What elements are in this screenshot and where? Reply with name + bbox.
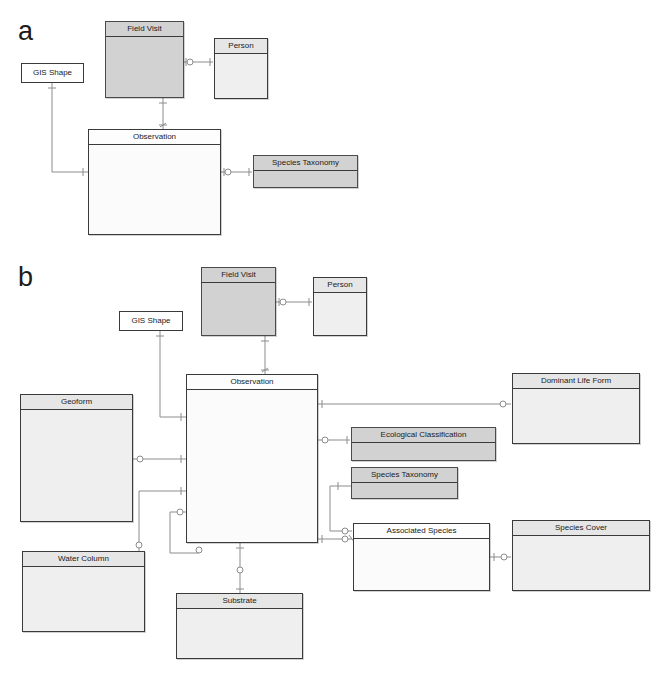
connector-field-visit-observation (159, 98, 167, 129)
entity-gis-shape-b[interactable]: GIS Shape (119, 311, 183, 331)
entity-body (202, 283, 275, 335)
entity-body (177, 609, 302, 658)
connector-field-visit-person (184, 58, 213, 66)
entity-title: Geoform (21, 395, 132, 410)
connector-b-field-visit-person (276, 298, 312, 306)
entity-title: Species Cover (513, 521, 649, 536)
connector-b-gis-shape-observation (156, 331, 186, 421)
connector-b-observation-dominant-life (318, 400, 511, 408)
connector-b-observation-assoc-species (318, 535, 355, 543)
entity-person-b[interactable]: Person (313, 277, 367, 336)
entity-associated-species[interactable]: Associated Species (353, 523, 490, 591)
entity-body (106, 37, 183, 97)
entity-body (352, 483, 457, 498)
entity-body (513, 536, 649, 590)
entity-species-taxonomy-b[interactable]: Species Taxonomy (351, 467, 458, 499)
entity-body (215, 54, 267, 98)
entity-dominant-life-form[interactable]: Dominant Life Form (512, 373, 640, 444)
entity-body (23, 567, 144, 631)
entity-title: Field Visit (202, 268, 275, 283)
entity-title: Ecological Classification (352, 428, 495, 443)
entity-field-visit-b[interactable]: Field Visit (201, 267, 276, 336)
entity-title: GIS Shape (120, 313, 182, 329)
entity-body (21, 410, 132, 521)
connector-b-observation-substrate (236, 543, 244, 593)
entity-body (254, 171, 357, 187)
connector-b-field-visit-observation (261, 336, 269, 374)
entity-gis-shape-a[interactable]: GIS Shape (21, 63, 84, 83)
entity-body (89, 145, 220, 234)
entity-substrate[interactable]: Substrate (176, 593, 303, 659)
entity-species-taxonomy-a[interactable]: Species Taxonomy (253, 155, 358, 188)
entity-title: GIS Shape (22, 65, 83, 81)
entity-observation-b[interactable]: Observation (186, 374, 318, 543)
entity-water-column[interactable]: Water Column (22, 551, 145, 632)
entity-title: Species Taxonomy (254, 156, 357, 171)
entity-title: Observation (89, 130, 220, 145)
connector-b-geoform-observation (133, 455, 186, 463)
entity-title: Dominant Life Form (513, 374, 639, 389)
entity-title: Species Taxonomy (352, 468, 457, 483)
entity-title: Substrate (177, 594, 302, 609)
entity-title: Person (314, 278, 366, 293)
entity-ecological-classification[interactable]: Ecological Classification (351, 427, 496, 461)
connector-b-assoc-species-cover (490, 553, 511, 561)
entity-observation-a[interactable]: Observation (88, 129, 221, 235)
panel-label-b: b (18, 264, 33, 291)
entity-title: Associated Species (354, 524, 489, 539)
entity-person-a[interactable]: Person (214, 38, 268, 99)
entity-title: Water Column (23, 552, 144, 567)
connector-b-observation-eco-class (318, 436, 350, 444)
entity-title: Field Visit (106, 22, 183, 37)
connector-b-species-taxonomy-assoc (330, 482, 352, 534)
panel-label-a: a (18, 18, 33, 45)
entity-body (513, 389, 639, 443)
entity-body (314, 293, 366, 335)
connector-observation-species-taxonomy (221, 168, 252, 176)
connector-b-water-column-observation (136, 487, 186, 551)
entity-geoform[interactable]: Geoform (20, 394, 133, 522)
connector-gis-shape-observation (48, 83, 88, 176)
entity-title: Person (215, 39, 267, 54)
entity-field-visit-a[interactable]: Field Visit (105, 21, 184, 98)
entity-species-cover[interactable]: Species Cover (512, 520, 650, 591)
entity-body (352, 443, 495, 460)
diagram-canvas: a b (0, 0, 661, 673)
entity-body (354, 539, 489, 590)
entity-title: Observation (187, 375, 317, 390)
entity-body (187, 390, 317, 542)
